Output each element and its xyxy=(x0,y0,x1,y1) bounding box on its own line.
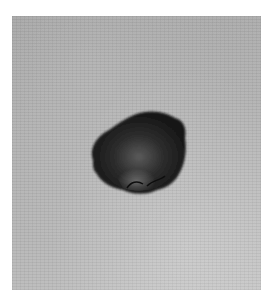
lesion xyxy=(87,108,189,198)
skin-photo xyxy=(12,16,261,290)
